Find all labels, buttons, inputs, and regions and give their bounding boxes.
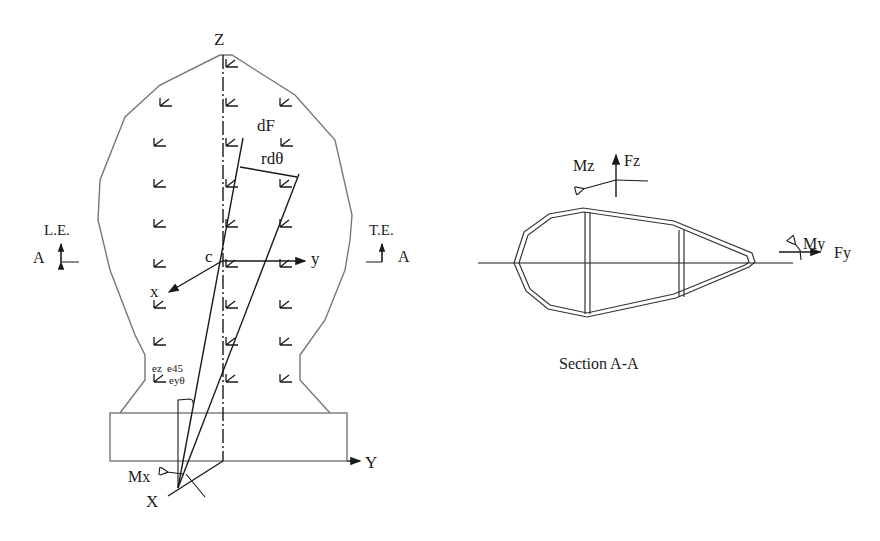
label-Mz: Mz xyxy=(573,157,594,174)
section-a-a: Mz Fz My Fy Section A-A xyxy=(478,152,851,372)
section-marker-right xyxy=(366,244,382,262)
label-Z: Z xyxy=(214,30,224,49)
global-x-axis xyxy=(168,461,223,496)
label-Fy: Fy xyxy=(834,244,851,262)
fz-horizontal xyxy=(616,180,648,181)
blade-root-block xyxy=(110,413,347,461)
label-rdtheta: rdθ xyxy=(261,149,283,168)
force-line-2 xyxy=(178,174,299,488)
local-x-axis xyxy=(169,261,222,292)
label-Y-global: Y xyxy=(365,453,377,472)
mx-hatch xyxy=(186,474,205,497)
label-Mx: Mx xyxy=(128,468,150,485)
label-leading-edge: L.E. xyxy=(44,222,70,238)
blade-elevation: Z dF rdθ c y x Y X Mx L.E. A T.E. A ez e… xyxy=(33,30,410,511)
label-My: My xyxy=(803,235,825,253)
label-trailing-edge: T.E. xyxy=(369,222,394,238)
label-eytheta: eyθ xyxy=(169,374,185,386)
mz-arrow xyxy=(583,180,616,189)
label-ez: ez xyxy=(152,362,162,374)
label-dF: dF xyxy=(257,116,275,135)
label-e45: e45 xyxy=(167,362,183,374)
section-caption: Section A-A xyxy=(559,355,639,372)
label-Fz: Fz xyxy=(624,152,640,169)
rdtheta-segment xyxy=(240,167,297,177)
label-x-local: x xyxy=(150,282,159,301)
force-line-1 xyxy=(178,138,243,488)
label-X-global: X xyxy=(146,492,158,511)
label-section-A-right: A xyxy=(398,248,410,265)
label-y-local: y xyxy=(311,249,320,268)
blade-load-diagram: Z dF rdθ c y x Y X Mx L.E. A T.E. A ez e… xyxy=(0,0,880,541)
section-marker-left xyxy=(61,244,79,262)
label-c: c xyxy=(205,247,213,266)
label-section-A-left: A xyxy=(33,249,45,266)
